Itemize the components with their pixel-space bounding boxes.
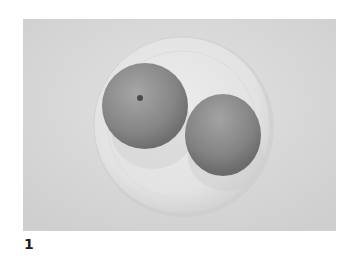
orange-navel [137, 95, 143, 101]
orange-left [102, 63, 188, 149]
photo-illustration [23, 19, 336, 231]
figure-number: 1 [24, 236, 34, 252]
orange-right [185, 94, 261, 176]
photograph-two-oranges-on-plate [23, 19, 336, 231]
